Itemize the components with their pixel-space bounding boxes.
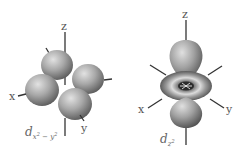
sub-minus: − xyxy=(40,133,50,141)
x-axis-front xyxy=(18,94,26,96)
z-axis-label: z xyxy=(61,20,67,33)
x-axis-label: x xyxy=(138,103,145,116)
orbital-dz2-panel: z x y dz2 xyxy=(124,0,248,151)
lobe-left xyxy=(25,74,59,106)
back-x-axis xyxy=(104,79,112,80)
back-y-axis xyxy=(208,66,222,75)
back-x-axis xyxy=(150,65,166,75)
z-axis-label: z xyxy=(182,8,188,21)
dz2-orbital-figure: z x y xyxy=(124,0,248,151)
orbital-label-dx2-y2: dx2 − y2 xyxy=(25,126,57,141)
orbital-dx2-y2-panel: z x y dx2 − y2 xyxy=(0,0,124,151)
lobe-bottom xyxy=(170,97,202,128)
x-axis-label: x xyxy=(9,90,16,103)
y-axis-front xyxy=(210,99,224,108)
sup-z-2: 2 xyxy=(171,138,174,144)
y-axis-label: y xyxy=(225,103,233,116)
orbital-label-dz2: dz2 xyxy=(160,133,175,148)
label-subscript: x2 − y2 xyxy=(33,133,58,141)
dx2-y2-orbital-figure: z x y xyxy=(0,0,124,151)
sup-y-2: 2 xyxy=(54,131,57,137)
lobe-front xyxy=(58,88,92,120)
y-axis-label: y xyxy=(80,122,88,135)
x-axis-front xyxy=(148,99,162,108)
label-subscript: z2 xyxy=(168,140,175,148)
label-d: d xyxy=(160,132,168,146)
label-d: d xyxy=(25,125,33,139)
